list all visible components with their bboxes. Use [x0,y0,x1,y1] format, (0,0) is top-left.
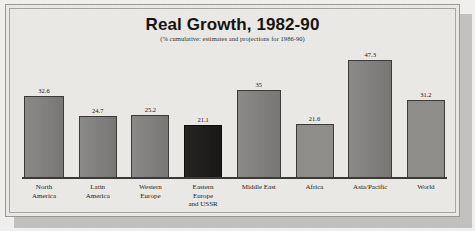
bar-series: 32.624.725.221.13521.647.331.2 [24,49,445,178]
bar [131,115,169,178]
axis-baseline [22,177,447,179]
bar [237,90,281,178]
bar-column: 47.3 [348,49,392,178]
bar-column: 32.6 [24,49,64,178]
category-label-line: Western [131,183,169,192]
bar [79,116,117,178]
category-label: Africa [296,182,334,212]
category-label-line: North [24,183,64,192]
category-label: LatinAmerica [79,182,117,212]
bar-value-label: 25.2 [145,107,156,114]
category-label: EasternEuropeand USSR [184,182,222,212]
category-label-line: Europe [131,192,169,201]
category-label-line: Middle East [237,183,281,192]
category-label-line: Asia/Pacific [348,183,392,192]
bar-value-label: 21.1 [197,117,208,124]
bar-column: 21.6 [296,49,334,178]
bar-column: 35 [237,49,281,178]
bar [348,60,392,178]
plot-area: 32.624.725.221.13521.647.331.2 [24,49,445,178]
bar-column: 21.1 [184,49,222,178]
category-label-line: and USSR [184,200,222,209]
category-label-line: America [24,192,64,201]
category-label-line: Africa [296,183,334,192]
category-label: WesternEurope [131,182,169,212]
category-label-line: Latin [79,183,117,192]
category-label-line: America [79,192,117,201]
bar-value-label: 47.3 [365,52,376,59]
category-label-line: Europe [184,192,222,201]
bar [296,124,334,178]
category-axis-labels: NorthAmericaLatinAmericaWesternEuropeEas… [24,182,445,212]
chart-title: Real Growth, 1982-90 [6,15,459,35]
chart-screenshot: Real Growth, 1982-90 (% cumulative: esti… [0,0,475,231]
bar-column: 24.7 [79,49,117,178]
bar-value-label: 32.6 [38,88,49,95]
bar-value-label: 24.7 [92,108,103,115]
bar [184,125,222,178]
bar-value-label: 31.2 [420,92,431,99]
bar-column: 25.2 [131,49,169,178]
category-label-line: World [407,183,445,192]
bar [407,100,445,178]
bar-value-label: 21.6 [309,116,320,123]
category-label: NorthAmerica [24,182,64,212]
bar-column: 31.2 [407,49,445,178]
category-label: Asia/Pacific [348,182,392,212]
bar-value-label: 35 [256,82,263,89]
chart-card: Real Growth, 1982-90 (% cumulative: esti… [5,4,460,217]
category-label: World [407,182,445,212]
bar [24,96,64,178]
category-label-line: Eastern [184,183,222,192]
chart-subtitle: (% cumulative: estimates and projections… [6,35,459,42]
category-label: Middle East [237,182,281,212]
